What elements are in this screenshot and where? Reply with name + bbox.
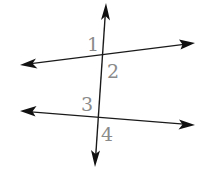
arrow-left-icon xyxy=(20,106,37,117)
angle-label-2: 2 xyxy=(107,60,119,82)
angle-label-4: 4 xyxy=(101,123,113,145)
angle-label-1: 1 xyxy=(87,33,99,55)
angle-label-3: 3 xyxy=(81,93,93,115)
parallel-lines-transversal-diagram: 1 2 3 4 xyxy=(0,0,215,178)
